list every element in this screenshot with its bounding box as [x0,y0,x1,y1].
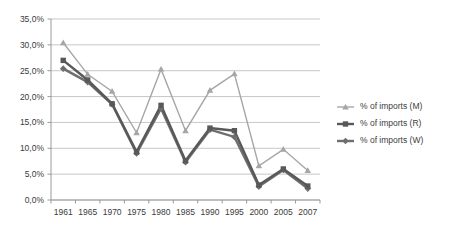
legend-marker-icon [343,121,348,126]
y-axis-tick-label: 25,0% [20,66,45,76]
series-data-point [231,71,238,77]
x-axis-tick-label: 1985 [176,207,195,217]
series-data-point [256,163,263,169]
line-chart: 0,0%5,0%10,0%15,0%20,0%25,0%30,0%35,0% 1… [0,0,449,235]
series-markers [60,40,311,192]
x-axis [51,200,320,204]
x-axis-tick-label: 1961 [54,207,73,217]
y-axis-tick-label: 20,0% [20,92,45,102]
x-axis-tick-label: 2000 [249,207,268,217]
series-data-point [183,158,188,163]
series-data-point [133,129,140,135]
series-data-point [281,166,286,171]
series-data-point [232,128,237,133]
x-axis-tick-label: 1975 [127,207,146,217]
series-data-point [182,127,189,133]
x-axis-tick-labels: 1961196519701975198019851990199520002005… [54,207,318,217]
series-data-point [61,58,66,63]
series-data-point [158,103,163,108]
x-axis-tick-label: 2005 [274,207,293,217]
x-axis-tick-label: 1970 [103,207,122,217]
y-axis-tick-label: 5,0% [25,169,45,179]
y-axis-tick-label: 15,0% [20,117,45,127]
series-data-point [280,146,287,152]
series-data-point [60,40,67,46]
chart-legend: % of imports (M)% of imports (R)% of imp… [337,101,423,145]
series-data-point [109,101,114,106]
series-data-point [256,182,261,187]
legend-marker-icon [342,138,349,145]
y-axis-tick-label: 10,0% [20,143,45,153]
series-line [63,43,308,171]
y-axis-tick-label: 30,0% [20,40,45,50]
x-axis-tick-label: 1995 [225,207,244,217]
series-data-point [207,87,214,93]
y-axis-tick-label: 35,0% [20,14,45,24]
chart-container: 0,0%5,0%10,0%15,0%20,0%25,0%30,0%35,0% 1… [0,0,449,235]
series-line [63,60,308,186]
y-axis [48,19,52,200]
series-data-point [158,66,165,72]
series-data-point [85,77,90,82]
y-axis-tick-labels: 0,0%5,0%10,0%15,0%20,0%25,0%30,0%35,0% [20,14,45,205]
series-data-point [134,149,139,154]
series-data-point [305,183,310,188]
legend-entry-label: % of imports (R) [360,118,422,128]
x-axis-tick-label: 1980 [152,207,171,217]
y-axis-tick-label: 0,0% [25,195,45,205]
series-lines [63,43,308,189]
x-axis-tick-label: 1965 [78,207,97,217]
legend-entry-label: % of imports (M) [360,101,423,111]
legend-entry-label: % of imports (W) [360,135,423,145]
series-data-point [207,125,212,130]
x-axis-tick-label: 1990 [200,207,219,217]
x-axis-tick-label: 2007 [298,207,317,217]
